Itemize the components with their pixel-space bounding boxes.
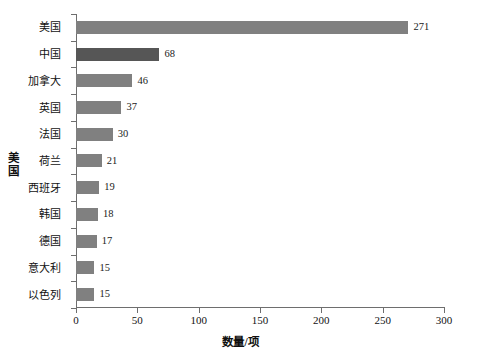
bar-row: 68 — [76, 41, 444, 68]
x-axis-tick-label: 250 — [374, 315, 391, 326]
bar — [76, 235, 97, 248]
y-axis-tick-label: 西班牙 — [0, 182, 61, 193]
x-axis-tick-label: 50 — [132, 315, 143, 326]
bar-row: 18 — [76, 201, 444, 228]
bar — [76, 181, 99, 194]
bar-row: 271 — [76, 14, 444, 41]
y-axis-tick-label: 法国 — [0, 129, 61, 140]
y-axis-tick-label: 中国 — [0, 49, 61, 60]
x-axis-tick-mark — [444, 308, 445, 313]
bar-value-label: 21 — [107, 156, 118, 167]
bar-row: 15 — [76, 255, 444, 282]
bar-row: 15 — [76, 281, 444, 308]
bar-row: 37 — [76, 94, 444, 121]
x-axis-tick-mark — [260, 308, 261, 313]
bar — [76, 288, 94, 301]
y-axis-tick-label: 美国 — [0, 22, 61, 33]
x-axis-tick-label: 100 — [190, 315, 207, 326]
y-axis-tick-label: 德国 — [0, 236, 61, 247]
bar — [76, 128, 113, 141]
bar-value-label: 19 — [104, 182, 115, 193]
x-axis-tick-mark — [137, 308, 138, 313]
bar-row: 46 — [76, 67, 444, 94]
bar-value-label: 46 — [137, 76, 148, 87]
bar — [76, 208, 98, 221]
x-axis-tick-label: 200 — [313, 315, 330, 326]
bar-value-label: 18 — [103, 209, 114, 220]
x-axis-tick-mark — [199, 308, 200, 313]
y-axis-tick-label: 加拿大 — [0, 75, 61, 86]
bar — [76, 74, 132, 87]
bar-row: 21 — [76, 148, 444, 175]
bar — [76, 48, 159, 61]
bar-value-label: 30 — [118, 129, 129, 140]
bar — [76, 154, 102, 167]
y-axis-tick-label: 以色列 — [0, 289, 61, 300]
y-axis-title: 美国 — [6, 152, 18, 177]
bar-rows: 27168463730211918171515 — [76, 14, 444, 308]
y-axis-tick-label: 意大利 — [0, 262, 61, 273]
bar-row: 19 — [76, 174, 444, 201]
x-axis-tick-mark — [76, 308, 77, 313]
bar — [76, 21, 408, 34]
x-axis-tick-mark — [321, 308, 322, 313]
x-axis-tick-label: 300 — [436, 315, 453, 326]
bar-value-label: 37 — [126, 102, 137, 113]
y-axis-tick-label: 英国 — [0, 102, 61, 113]
bar-row: 17 — [76, 228, 444, 255]
x-axis-tick-label: 0 — [73, 315, 79, 326]
bar-value-label: 15 — [99, 263, 110, 274]
x-axis-title: 数量/项 — [0, 333, 481, 349]
bar-value-label: 17 — [102, 236, 113, 247]
bar-value-label: 68 — [164, 49, 175, 60]
y-axis-tick-label: 韩国 — [0, 209, 61, 220]
plot-area: 27168463730211918171515 — [76, 14, 444, 308]
bar-value-label: 15 — [99, 289, 110, 300]
bar-value-label: 271 — [413, 22, 429, 33]
x-axis-tick-mark — [383, 308, 384, 313]
bar-row: 30 — [76, 121, 444, 148]
x-axis-tick-label: 150 — [252, 315, 269, 326]
bar — [76, 101, 121, 114]
bar — [76, 261, 94, 274]
bar-chart: 美国中国加拿大英国法国荷兰西班牙韩国德国意大利以色列 2716846373021… — [0, 0, 481, 359]
